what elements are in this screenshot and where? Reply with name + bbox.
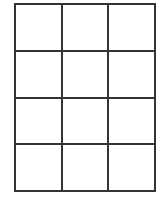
grid-cell-r3-c2 [63, 99, 109, 145]
grid-cell-r4-c2 [63, 145, 109, 190]
grid-cell-r2-c3 [109, 52, 154, 99]
grid-cell-r1-c3 [109, 5, 154, 52]
grid-cell-r2-c1 [16, 52, 63, 99]
grid-cell-r4-c3 [109, 145, 154, 190]
grid-cell-r1-c1 [16, 5, 63, 52]
grid-cell-r1-c2 [63, 5, 109, 52]
canvas [0, 0, 160, 197]
grid-cell-r3-c1 [16, 99, 63, 145]
empty-grid-table [14, 3, 156, 192]
grid-cell-r4-c1 [16, 145, 63, 190]
grid-cell-r3-c3 [109, 99, 154, 145]
grid-cell-r2-c2 [63, 52, 109, 99]
